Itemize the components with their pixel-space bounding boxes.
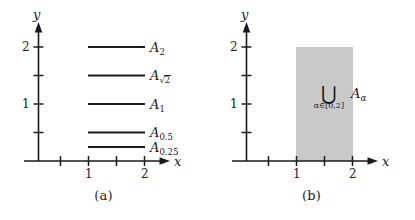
segment-label-A-sqrt2-base: A [150,68,159,83]
panel-a-caption: (a) [0,188,207,203]
panel-a: y x 2 1 1 2 A2 A√2 A1 A0.5 A0.25 (a) [0,0,207,220]
segment-label-A-1-subscript: 1 [159,104,164,114]
y-axis-label: y [33,8,40,21]
segment-label-A-2-base: A [150,40,159,55]
segment-label-A-sqrt2: A√2 [150,69,171,85]
x-tick-label-1: 1 [293,168,301,180]
segment-label-A-0.25-subscript: 0.25 [159,147,178,157]
x-tick-label-1: 1 [85,168,93,180]
x-axis-label: x [382,155,389,168]
y-axis [243,22,251,161]
y-tick-label-1: 1 [230,98,238,110]
panel-b: y x 2 1 1 2 ⋃ α∈[0,2] Aα (b) [208,0,415,220]
segment-label-A-0.5: A0.5 [150,126,173,141]
y-tick-label-1: 1 [22,98,30,110]
segment-label-A-0.5-base: A [150,125,159,140]
x-axis [24,157,170,165]
union-glyph-icon: ⋃ [314,84,344,102]
panel-b-caption: (b) [208,188,415,203]
segment-label-A-0.25: A0.25 [150,141,178,156]
segment-label-A-1: A1 [150,98,165,113]
y-axis-label: y [241,8,248,21]
y-tick-label-2: 2 [230,41,238,53]
segment-label-A-0.25-base: A [150,140,159,155]
x-axis-label: x [174,155,181,168]
panel-a-plot [0,0,207,220]
segment-label-A-1-base: A [150,97,159,112]
segment-label-A-2-subscript: 2 [159,47,164,57]
union-operand-subscript: α [360,92,366,102]
y-tick-label-2: 2 [22,41,30,53]
union-expression: ⋃ α∈[0,2] Aα [294,84,386,110]
union-index-range: α∈[0,2] [314,102,344,110]
segment-label-A-2: A2 [150,41,165,56]
segment-label-A-sqrt2-subscript: √2 [159,75,170,85]
union-operand: Aα [351,87,366,102]
figure-root: y x 2 1 1 2 A2 A√2 A1 A0.5 A0.25 (a) [0,0,415,220]
x-tick-label-2: 2 [349,168,357,180]
y-axis [35,22,43,161]
union-operator: ⋃ α∈[0,2] [314,84,344,110]
x-tick-label-2: 2 [141,168,149,180]
